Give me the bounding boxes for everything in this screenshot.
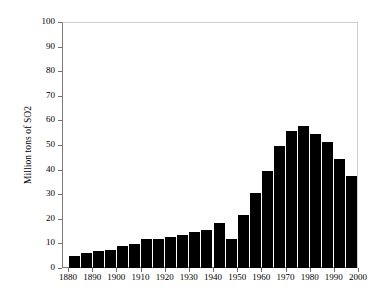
x-tick-mark [116,268,117,272]
y-tick-label: 80 [29,66,55,75]
bar [69,256,80,268]
x-tick-mark [92,268,93,272]
x-tick-mark [310,268,311,272]
bar [201,230,212,268]
x-tick-mark [189,268,190,272]
bar [238,215,249,268]
y-tick-mark [58,268,62,269]
y-tick-label: 50 [29,140,55,149]
bar [81,253,92,268]
bar [310,134,321,268]
x-tick-mark [358,268,359,272]
x-tick-mark [261,268,262,272]
y-tick-label: 30 [29,189,55,198]
bar [105,250,116,268]
y-tick-label: 40 [29,165,55,174]
x-tick-mark [237,268,238,272]
bar [189,232,200,268]
x-tick-mark [165,268,166,272]
bar [286,131,297,268]
y-tick-label: 0 [29,263,55,272]
bar [214,223,225,269]
bar [250,193,261,268]
y-tick-label: 90 [29,42,55,51]
bar [274,146,285,268]
y-tick-label: 60 [29,115,55,124]
bar [93,251,104,268]
bar [129,244,140,268]
x-tick-mark [213,268,214,272]
bar [117,246,128,268]
bar [322,142,333,268]
x-tick-label: 2000 [341,272,375,282]
y-tick-label: 70 [29,91,55,100]
y-tick-label: 20 [29,214,55,223]
bar [165,237,176,268]
y-tick-label: 10 [29,238,55,247]
bar [262,171,273,268]
x-tick-mark [141,268,142,272]
x-tick-mark [286,268,287,272]
chart-figure: Million tons of SO2 01020304050607080901… [0,0,384,302]
bar-series [63,23,357,268]
bar [141,239,152,268]
bar [298,126,309,268]
bar [346,176,357,268]
x-tick-mark [68,268,69,272]
bar [177,235,188,268]
bar [334,159,345,268]
bar [153,239,164,268]
bar [226,239,237,268]
x-tick-mark [334,268,335,272]
y-tick-label: 100 [29,17,55,26]
